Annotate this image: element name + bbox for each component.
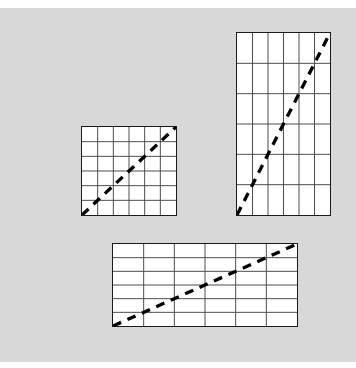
- figure-canvas: [0, 0, 356, 368]
- tall-grid-canvas: [237, 33, 330, 215]
- tall-grid: [236, 32, 331, 216]
- wide-grid: [112, 243, 298, 327]
- square-grid-canvas: [82, 127, 176, 215]
- wide-grid-canvas: [113, 244, 297, 326]
- square-grid: [81, 126, 177, 216]
